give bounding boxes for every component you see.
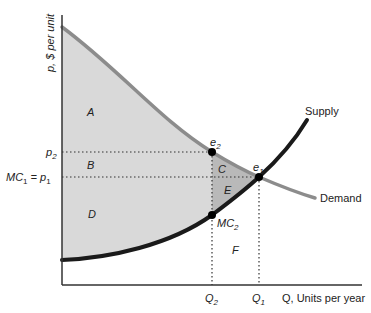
region-d-label: D [88, 208, 96, 220]
point-mc2 [208, 211, 216, 219]
y-axis-label: p, $ per unit [44, 13, 56, 73]
mc2-label: MC2 [217, 217, 239, 232]
supply-label: Supply [305, 105, 339, 117]
p1-label: MC1 = p1 [6, 171, 51, 186]
region-f-label: F [232, 244, 240, 256]
surplus-region-abd [62, 27, 212, 260]
region-e-label: E [224, 184, 232, 196]
region-c-label: C [218, 163, 226, 175]
q2-label: Q2 [205, 292, 219, 307]
welfare-diagram: p, $ per unit p2 MC1 = p1 Q2 Q1 Q, Units… [0, 0, 371, 313]
region-b-label: B [87, 159, 94, 171]
region-a-label: A [86, 106, 94, 118]
point-e2 [208, 148, 216, 156]
x-axis-label: Q, Units per year [282, 292, 365, 304]
demand-label: Demand [320, 192, 362, 204]
p2-label: p2 [45, 146, 57, 161]
q1-label: Q1 [252, 292, 265, 307]
